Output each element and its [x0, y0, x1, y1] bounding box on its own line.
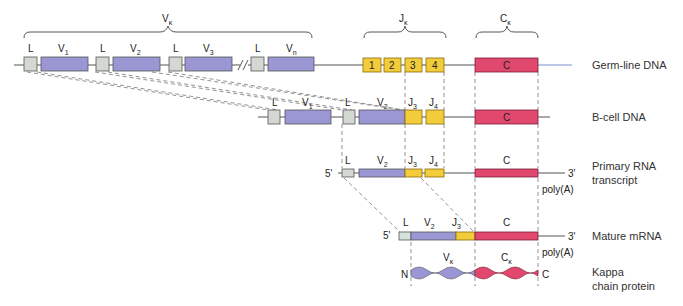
brace-v-kappa [24, 26, 312, 38]
label-v1: V1 [58, 43, 69, 56]
brace-j-label: Jκ [399, 13, 408, 26]
germline-vn [268, 57, 314, 71]
label-v3: V3 [203, 43, 214, 56]
j-number: 3 [410, 60, 416, 71]
row-label-mature-mrna: Mature mRNA [592, 230, 662, 242]
label-v2: V2 [377, 155, 388, 168]
label-l: L [345, 155, 351, 166]
label-j3: J3 [408, 97, 417, 110]
label-v2: V2 [424, 217, 435, 230]
protein-v-region [411, 267, 475, 279]
label-l: L [272, 97, 278, 108]
label-v2: V2 [130, 43, 141, 56]
kappa-protein-row: N C Vκ Cκ Kappa chain protein [401, 252, 655, 292]
germline-v2 [113, 57, 160, 71]
three-prime-label: 3' [568, 168, 576, 179]
j-number: 1 [369, 60, 375, 71]
poly-a-label: poly(A) [542, 247, 574, 258]
five-prime-label: 5' [325, 168, 333, 179]
c-label: C [503, 60, 510, 71]
j-number: 2 [389, 60, 395, 71]
label-l: L [255, 43, 261, 54]
poly-a-label: poly(A) [542, 184, 574, 195]
row-label-kappa-2: chain protein [592, 280, 655, 292]
c-label: C [503, 112, 510, 123]
five-prime-label: 5' [383, 230, 391, 241]
germline-l2 [96, 57, 109, 71]
primary-rna-row: 5' L V2 J3 J4 C 3' poly(A) Primary RNA t… [325, 155, 657, 195]
protein-c-label: Cκ [501, 252, 512, 265]
j-number: 4 [432, 60, 438, 71]
label-v1: V1 [302, 97, 313, 110]
label-l: L [345, 97, 351, 108]
protein-c-region [475, 267, 538, 279]
germline-ln [251, 57, 264, 71]
label-j3: J3 [452, 217, 461, 230]
label-l: L [28, 43, 34, 54]
germline-l1 [24, 57, 37, 71]
label-j3: J3 [408, 155, 417, 168]
brace-c-label: Cκ [500, 13, 511, 26]
mature-mrna-row: 5' L V2 J3 C 3' poly(A) Mature mRNA [383, 217, 662, 258]
label-v2: V2 [377, 97, 388, 110]
row-label-bcell: B-cell DNA [592, 111, 646, 123]
label-vn: Vn [286, 43, 297, 56]
row-label-primary-rna-2: transcript [592, 174, 637, 186]
germline-v3 [185, 57, 232, 71]
label-j4: J4 [429, 97, 438, 110]
label-l: L [403, 217, 409, 228]
label-l: L [173, 43, 179, 54]
brace-j-kappa [364, 26, 446, 38]
row-label-kappa: Kappa [592, 266, 625, 278]
label-j4: J4 [429, 155, 438, 168]
germline-v1 [41, 57, 88, 71]
c-terminus-label: C [542, 269, 549, 280]
dashed-connectors [27, 72, 538, 286]
row-label-primary-rna: Primary RNA [592, 160, 657, 172]
germline-dna-row: L V1 L V2 L V3 L Vn 1 2 3 4 C Germ-line … [14, 43, 667, 72]
three-prime-label: 3' [568, 231, 576, 242]
brace-c-kappa [476, 26, 538, 38]
label-l: L [100, 43, 106, 54]
row-label-germline: Germ-line DNA [592, 59, 667, 71]
c-label: C [503, 217, 510, 228]
n-terminus-label: N [401, 269, 408, 280]
germline-l3 [169, 57, 182, 71]
protein-v-label: Vκ [443, 252, 454, 265]
c-label: C [503, 155, 510, 166]
kappa-light-chain-rearrangement-diagram: Vκ Jκ Cκ [0, 0, 683, 306]
brace-v-label: Vκ [162, 13, 173, 26]
bcell-dna-row: L V1 L V2 J3 J4 C B-cell DNA [258, 97, 646, 124]
